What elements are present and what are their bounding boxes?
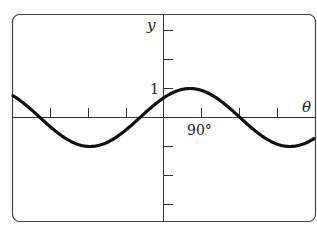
sine-chart: y θ 1 90° [0, 0, 317, 225]
y-axis-label: y [146, 16, 156, 34]
y-tick-label-1: 1 [150, 81, 159, 97]
x-tick-label-90: 90° [187, 122, 212, 138]
x-axis-label: θ [302, 98, 311, 116]
